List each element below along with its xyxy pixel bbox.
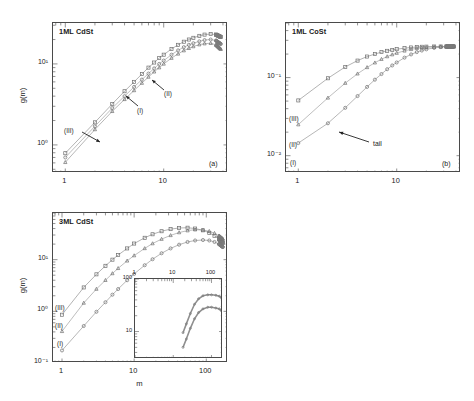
y-axis-label: g(m) (18, 264, 27, 308)
figure-canvas: 10⁰10¹1101ML CdSt(a)g(m)(III)(I)(II)10⁻¹… (0, 0, 474, 401)
panel-title-c: 3ML CdSt (59, 217, 93, 226)
inset-y-tick-label: 100 (114, 274, 132, 280)
curve-label-III: (III) (55, 304, 65, 311)
curve-label-I: (I) (57, 340, 63, 347)
curve-label-II: (II) (55, 322, 63, 329)
inset-plot-c (134, 278, 222, 358)
y-tick-label: 10¹ (26, 254, 48, 261)
y-tick-label: 10⁻¹ (26, 357, 48, 365)
y-tick-label: 10⁰ (26, 305, 48, 313)
inset-x-tick-label: 100 (198, 269, 222, 275)
x-tick-label: 10 (119, 366, 147, 375)
x-axis-label: m (132, 379, 148, 388)
inset-inner (135, 279, 221, 357)
inset-y-tick-label: 10 (114, 327, 132, 333)
panel-c: 10⁻¹10⁰10¹1101003ML CdSt(c)g(m)m(III)(II… (0, 0, 474, 401)
x-tick-label: 100 (191, 366, 219, 375)
x-tick-label: 1 (47, 366, 75, 375)
inset-x-tick-label: 10 (160, 269, 184, 275)
